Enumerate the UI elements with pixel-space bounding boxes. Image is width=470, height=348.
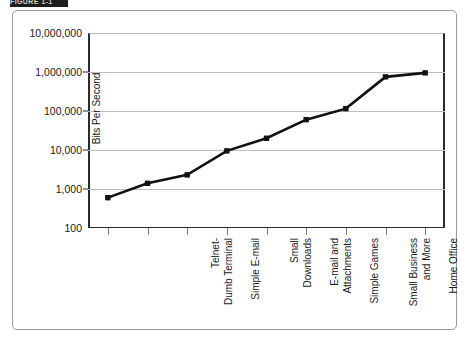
y-axis-tick-label: 100 xyxy=(64,222,82,234)
x-axis-tick-mark xyxy=(227,228,228,235)
x-axis-tick-label: E-mail and Attachments xyxy=(329,238,354,334)
figure-container: FIGURE 1-1 10,000,0001,000,000100,00010,… xyxy=(0,0,470,348)
y-axis-tick-label: 100,000 xyxy=(44,105,82,117)
figure-caption-text: FIGURE 1-1 xyxy=(10,0,68,5)
y-axis-tick-label: 10,000,000 xyxy=(29,27,82,39)
y-axis-tick-label: 10,000 xyxy=(50,144,82,156)
data-point-marker xyxy=(105,195,110,200)
y-axis-tick-label: 1,000 xyxy=(56,183,82,195)
data-series-line xyxy=(88,33,445,228)
x-axis-tick-label: Small Business and More xyxy=(408,238,433,334)
chart-plot-area: 10,000,0001,000,000100,00010,0001,000100… xyxy=(88,33,445,228)
data-point-marker xyxy=(264,136,269,141)
data-point-marker xyxy=(343,106,348,111)
x-axis-tick-mark xyxy=(306,228,307,235)
data-point-marker xyxy=(145,181,150,186)
y-axis-title: Bits Per Second xyxy=(91,39,102,179)
data-point-marker xyxy=(224,148,229,153)
x-axis-tick-mark xyxy=(187,228,188,235)
figure-caption-strip: FIGURE 1-1 xyxy=(10,0,68,7)
x-axis-tick-mark xyxy=(346,228,347,235)
y-axis-tick-label: 1,000,000 xyxy=(35,66,82,78)
x-axis-tick-label: Home Office xyxy=(448,238,461,334)
x-axis-tick-label: Simple Games xyxy=(369,238,382,334)
data-point-marker xyxy=(422,70,427,75)
x-axis-tick-label: Small Downloads xyxy=(289,238,314,334)
x-axis-tick-mark xyxy=(425,228,426,235)
data-point-marker xyxy=(303,117,308,122)
x-axis-tick-label: Simple E-mail xyxy=(250,238,263,334)
x-axis-tick-mark xyxy=(108,228,109,235)
x-axis-tick-mark xyxy=(267,228,268,235)
data-point-marker xyxy=(184,172,189,177)
x-axis-tick-mark xyxy=(386,228,387,235)
series-polyline xyxy=(108,73,425,198)
data-point-marker xyxy=(383,74,388,79)
x-axis-tick-mark xyxy=(148,228,149,235)
x-axis-tick-label: Telnet- Dumb Terminal xyxy=(210,238,235,334)
